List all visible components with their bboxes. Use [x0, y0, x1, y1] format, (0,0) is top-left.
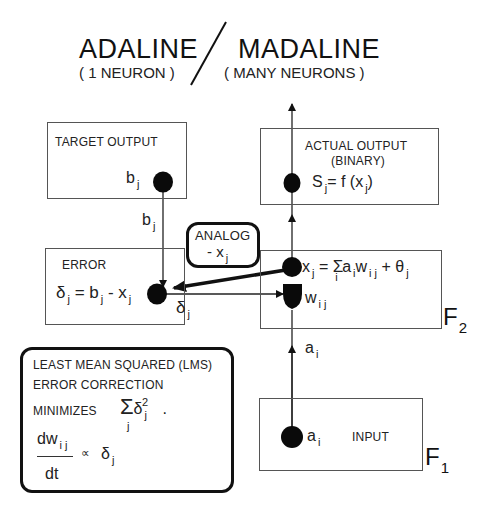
input-node-var: a [307, 427, 316, 444]
f2-w-sub: i j [369, 267, 377, 279]
input-link-var: a [305, 339, 314, 356]
error-equation: δj = bj - xj [56, 283, 131, 305]
lms-num: dw [37, 430, 57, 447]
delta-link-var: δ [176, 298, 185, 317]
madaline-subtitle: ( MANY NEURONS ) [224, 64, 365, 81]
lms-frac-denominator: dt [45, 465, 58, 483]
madaline-title: MADALINE [238, 34, 380, 65]
actual-output-box: ACTUAL OUTPUT (BINARY) Sj= f (xj) [260, 128, 439, 205]
lms-frac-numerator: dwi j [37, 430, 67, 451]
err-eq2: - x [108, 283, 127, 302]
f2-layer-label: F2 [443, 303, 467, 336]
f2-a: a [342, 258, 351, 275]
target-var: b [126, 169, 135, 186]
weight-var: w [305, 289, 317, 306]
adaline-subtitle: ( 1 NEURON ) [79, 64, 175, 81]
target-link-var: b [142, 211, 151, 228]
f2-eq: = [319, 258, 333, 275]
f2-theta-sub: j [406, 267, 408, 279]
f1-letter: F [425, 443, 440, 470]
lms-sigma: Σ [120, 394, 134, 419]
lms-prop-delta: δj [101, 445, 114, 466]
input-link-label: ai [305, 339, 318, 360]
lms-line2: ERROR CORRECTION [33, 378, 164, 392]
lms-proportional: ∝ [81, 446, 90, 460]
f2-sigma-sub: i [335, 271, 337, 283]
target-link-label: bj [142, 211, 155, 232]
actual-output-label: ACTUAL OUTPUT [305, 139, 407, 153]
lms-num-sub: i j [59, 439, 67, 451]
eq-rhs: = f (x [327, 173, 363, 190]
err-eq1-sub: j [101, 293, 103, 305]
delta-link-sub: j [187, 308, 189, 320]
actual-output-binary-label: (BINARY) [331, 154, 385, 168]
weight-sub: i j [319, 298, 327, 310]
analog-box: ANALOG - xj [186, 222, 260, 268]
f2-plus-theta: + θ [381, 258, 404, 275]
analog-x: - x [207, 243, 224, 260]
lms-sup: 2 [142, 396, 148, 408]
f2-x-sub: j [312, 267, 314, 279]
analog-var: - xj [207, 243, 228, 264]
net-input-equation: xj = Σi aiwi j + θj [302, 257, 409, 283]
lms-box: LEAST MEAN SQUARED (LMS) ERROR CORRECTIO… [20, 347, 234, 493]
input-node-sub: i [318, 436, 320, 448]
target-sub: j [137, 178, 139, 190]
f2-letter: F [443, 303, 458, 330]
err-eq1: = b [75, 283, 99, 302]
lms-delta-sub: j [145, 409, 147, 421]
delta-link-label: δj [176, 298, 190, 320]
input-node-label: ai [307, 427, 320, 448]
f2-w: w [355, 258, 367, 275]
target-link-sub: j [153, 220, 155, 232]
lms-line3: MINIMIZES [33, 404, 97, 418]
f2-x: x [302, 258, 310, 275]
target-node-label: bj [126, 169, 139, 190]
lms-sum-expression: Σδj2 . [120, 394, 167, 421]
error-box: ERROR δj = bj - xj [45, 248, 185, 325]
f1-input-box: ai INPUT [259, 398, 423, 471]
lms-prop-delta-sub: j [112, 454, 114, 466]
lms-dot: . [163, 400, 167, 417]
lms-prop-delta-var: δ [101, 445, 110, 462]
err-delta: δ [56, 283, 65, 302]
f1-subscript: 1 [441, 459, 449, 476]
analog-x-sub: j [226, 252, 228, 264]
input-link-sub: i [316, 348, 318, 360]
weight-label: wi j [305, 289, 327, 310]
lms-line1: LEAST MEAN SQUARED (LMS) [33, 358, 212, 372]
f2-layer-box: xj = Σi aiwi j + θj wi j [260, 250, 442, 329]
analog-label: ANALOG [195, 228, 250, 243]
f1-layer-label: F1 [425, 443, 449, 476]
eq-s: S [312, 173, 323, 190]
adaline-title: ADALINE [79, 34, 198, 65]
input-label: INPUT [352, 430, 389, 444]
lms-fraction-bar [37, 456, 73, 457]
err-delta-sub: j [67, 293, 69, 305]
f2-subscript: 2 [459, 319, 467, 336]
target-output-label: TARGET OUTPUT [55, 135, 158, 149]
err-eq2-sub: j [129, 293, 131, 305]
target-output-box: TARGET OUTPUT bj [47, 122, 187, 199]
lms-sum-sub: j [127, 420, 129, 432]
error-label: ERROR [62, 258, 106, 272]
eq-close: ) [368, 173, 373, 190]
actual-output-equation: Sj= f (xj) [312, 173, 373, 194]
